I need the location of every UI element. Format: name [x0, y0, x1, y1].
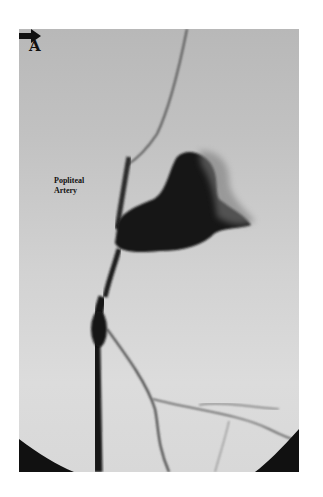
annotation-line-2: Artery	[54, 186, 84, 196]
popliteal-artery-label: Popliteal Artery	[54, 176, 84, 196]
annotation-line-1: Popliteal	[54, 176, 84, 186]
arrow-right-icon	[19, 29, 41, 43]
angiogram-image	[19, 29, 299, 472]
angiogram-panel: A Popliteal Artery	[19, 29, 299, 472]
